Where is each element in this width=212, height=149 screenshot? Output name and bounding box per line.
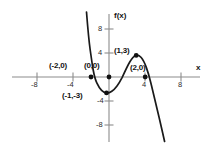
annotation-2-0: (2,0) — [130, 64, 145, 72]
cubic-function-plot — [0, 0, 212, 149]
point-marker-neg1-neg3 — [104, 91, 109, 96]
x-tick-label--8: -8 — [31, 81, 38, 89]
x-tick-label-8: 8 — [178, 81, 182, 89]
x-tick-label-4: 4 — [142, 81, 146, 89]
y-tick-label--4: -4 — [97, 97, 104, 105]
annotation-neg1-neg3: (-1,-3) — [62, 92, 82, 100]
point-marker-1-3 — [134, 53, 139, 58]
graph-figure: f(x) x -8 -4 4 8 8 4 -4 -8 (-2,0) (0,0) … — [0, 0, 212, 149]
annotation-1-3: (1,3) — [114, 47, 129, 55]
y-tick-label--8: -8 — [96, 121, 103, 129]
point-marker-0-0 — [107, 75, 112, 80]
y-axis-label: f(x) — [114, 12, 126, 20]
x-tick-label--4: -4 — [67, 81, 74, 89]
annotation-neg2-0: (-2,0) — [49, 62, 67, 70]
y-tick-label-4: 4 — [98, 49, 102, 57]
point-marker-2-0 — [143, 75, 148, 80]
annotation-0-0: (0,0) — [84, 62, 99, 70]
point-marker-neg2-0 — [89, 75, 94, 80]
x-axis-label: x — [196, 64, 200, 72]
y-tick-label-8: 8 — [98, 25, 102, 33]
